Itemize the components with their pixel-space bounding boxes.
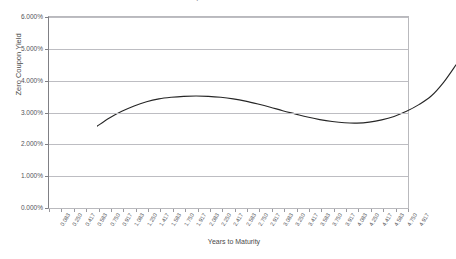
x-axis-tick xyxy=(371,209,372,212)
x-axis-tick xyxy=(396,209,397,212)
gridline xyxy=(49,81,408,82)
x-axis-tick xyxy=(272,209,273,212)
x-axis-tick xyxy=(148,209,149,212)
x-axis-title: Years to Maturity xyxy=(48,238,420,245)
yield-curve-path xyxy=(97,65,456,126)
x-axis-tick xyxy=(210,209,211,212)
y-axis-tick xyxy=(45,17,48,18)
x-axis-tick xyxy=(86,209,87,212)
gridline xyxy=(49,49,408,50)
y-tick-label: 2.000% xyxy=(0,140,43,147)
chart-title: Zero Coupon Yield Curve xyxy=(0,0,420,1)
x-axis-tick xyxy=(160,209,161,212)
y-tick-label: 5.000% xyxy=(0,45,43,52)
y-axis-tick xyxy=(45,49,48,50)
x-tick-label: 0.250 xyxy=(71,212,83,227)
gridline xyxy=(49,144,408,145)
x-axis-tick xyxy=(309,209,310,212)
gridline xyxy=(49,17,408,18)
x-axis-tick xyxy=(321,209,322,212)
gridline xyxy=(49,176,408,177)
x-axis-tick xyxy=(49,209,50,212)
x-axis-tick xyxy=(123,209,124,212)
x-axis-tick xyxy=(111,209,112,212)
x-tick-label: 0.417 xyxy=(84,212,96,227)
x-axis-tick xyxy=(198,209,199,212)
yield-curve-line xyxy=(97,33,456,224)
x-axis-tick xyxy=(235,209,236,212)
x-axis-tick xyxy=(334,209,335,212)
x-tick-label: 0.083 xyxy=(59,212,71,227)
y-tick-label: 1.000% xyxy=(0,172,43,179)
x-axis-tick xyxy=(185,209,186,212)
y-axis-tick xyxy=(45,144,48,145)
x-axis-tick xyxy=(173,209,174,212)
y-tick-label: 0.000% xyxy=(0,204,43,211)
x-axis-tick xyxy=(61,209,62,212)
y-axis-tick xyxy=(45,208,48,209)
y-axis-tick xyxy=(45,81,48,82)
x-axis-tick xyxy=(136,209,137,212)
x-axis-tick xyxy=(222,209,223,212)
x-axis-tick xyxy=(259,209,260,212)
x-axis-tick xyxy=(247,209,248,212)
x-axis-tick xyxy=(346,209,347,212)
y-tick-label: 3.000% xyxy=(0,109,43,116)
x-axis-tick xyxy=(297,209,298,212)
y-axis-tick xyxy=(45,176,48,177)
y-tick-label: 4.000% xyxy=(0,77,43,84)
y-axis-tick xyxy=(45,113,48,114)
x-axis-tick xyxy=(74,209,75,212)
x-axis-tick xyxy=(383,209,384,212)
x-axis-tick xyxy=(408,209,409,212)
x-axis-tick xyxy=(358,209,359,212)
y-tick-label: 6.000% xyxy=(0,13,43,20)
x-axis-tick xyxy=(99,209,100,212)
x-axis-tick xyxy=(284,209,285,212)
gridline xyxy=(49,113,408,114)
